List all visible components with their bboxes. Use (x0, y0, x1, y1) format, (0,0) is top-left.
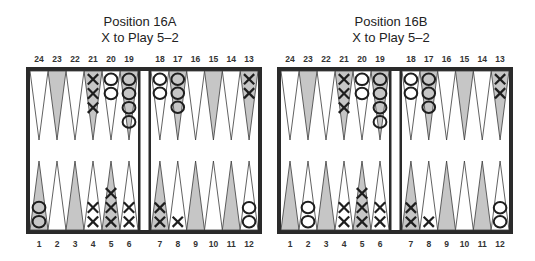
diagram-position-16a: Position 16A X to Play 5–2 1234567891011… (10, 0, 270, 261)
point-label: 20 (106, 54, 116, 64)
point-label: 13 (244, 54, 254, 64)
point-label: 15 (209, 54, 219, 64)
point-label: 9 (193, 239, 198, 249)
point-label: 4 (342, 239, 347, 249)
point-label: 19 (375, 54, 385, 64)
point-label: 16 (191, 54, 201, 64)
point-label: 17 (173, 54, 183, 64)
point-label: 5 (360, 239, 365, 249)
backgammon-board: 123456789101112131415161718192021222324 (261, 0, 521, 261)
point-label: 6 (378, 239, 383, 249)
point-label: 6 (127, 239, 132, 249)
point-label: 9 (444, 239, 449, 249)
point-label: 11 (478, 239, 487, 249)
point-label: 10 (209, 239, 219, 249)
point-label: 22 (321, 54, 331, 64)
point-label: 23 (52, 54, 62, 64)
diagram-position-16b: Position 16B X to Play 5–2 1234567891011… (261, 0, 521, 261)
point-label: 8 (175, 239, 180, 249)
point-label: 3 (73, 239, 78, 249)
point-label: 1 (288, 239, 293, 249)
point-label: 8 (426, 239, 431, 249)
point-label: 21 (339, 54, 349, 64)
point-label: 16 (442, 54, 452, 64)
point-label: 5 (109, 239, 114, 249)
point-label: 11 (227, 239, 236, 249)
point-label: 2 (55, 239, 60, 249)
point-label: 14 (227, 54, 237, 64)
point-label: 24 (34, 54, 44, 64)
point-label: 18 (406, 54, 416, 64)
point-label: 1 (37, 239, 42, 249)
point-label: 20 (357, 54, 367, 64)
point-label: 24 (285, 54, 295, 64)
point-label: 23 (303, 54, 313, 64)
point-label: 7 (158, 239, 163, 249)
point-label: 10 (460, 239, 470, 249)
point-label: 17 (424, 54, 434, 64)
point-label: 13 (495, 54, 505, 64)
point-label: 19 (124, 54, 134, 64)
point-label: 22 (70, 54, 80, 64)
point-label: 3 (324, 239, 329, 249)
backgammon-board: 123456789101112131415161718192021222324 (10, 0, 270, 261)
point-label: 4 (91, 239, 96, 249)
point-label: 12 (495, 239, 505, 249)
point-label: 21 (88, 54, 98, 64)
point-label: 7 (409, 239, 414, 249)
point-label: 2 (306, 239, 311, 249)
point-label: 14 (478, 54, 488, 64)
point-label: 18 (155, 54, 165, 64)
point-label: 15 (460, 54, 470, 64)
point-label: 12 (244, 239, 254, 249)
